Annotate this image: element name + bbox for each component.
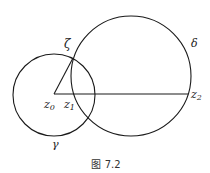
label-gamma: γ xyxy=(52,138,59,151)
circle-gamma xyxy=(13,54,95,136)
label-delta: δ xyxy=(191,37,198,50)
figure-canvas: ζ δ γ z0 z1 z2 图 7.2 xyxy=(0,0,210,173)
label-zeta: ζ xyxy=(64,37,72,51)
figure-caption: 图 7.2 xyxy=(91,159,120,170)
label-z0: z0 xyxy=(43,98,55,112)
label-z2: z2 xyxy=(190,88,202,102)
label-z1: z1 xyxy=(63,98,75,112)
segment-z0-zeta xyxy=(54,58,73,94)
circle-delta xyxy=(71,16,191,136)
